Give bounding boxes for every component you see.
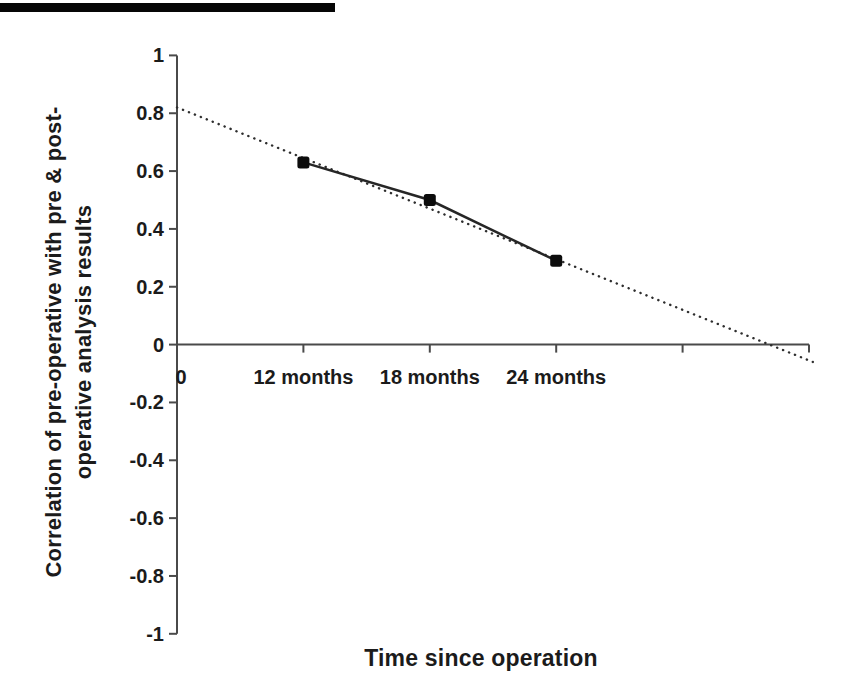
y-tick-label: 0.4 — [136, 218, 165, 240]
x-category-label: 12 months — [253, 366, 353, 388]
y-tick-label: 0 — [153, 334, 164, 356]
data-point-marker — [424, 194, 436, 206]
figure: Correlation of pre-operative with pre & … — [0, 0, 854, 698]
y-tick-label: 0.2 — [136, 276, 164, 298]
y-tick-label: -1 — [146, 623, 164, 645]
data-point-marker — [297, 156, 309, 168]
data-point-marker — [550, 255, 562, 267]
y-tick-label: -0.6 — [130, 507, 164, 529]
y-tick-label: -0.8 — [130, 565, 164, 587]
y-tick-label: -0.4 — [130, 449, 165, 471]
series-line — [303, 162, 556, 260]
plot-area: 10.80.60.40.20-0.2-0.4-0.6-0.8-1012 mont… — [0, 0, 854, 698]
y-tick-label: 0.8 — [136, 102, 164, 124]
x-axis-title: Time since operation — [321, 645, 641, 672]
y-tick-label: -0.2 — [130, 391, 164, 413]
trendline-dotted — [177, 107, 813, 361]
x-category-label: 18 months — [380, 366, 480, 388]
x-category-label: 0 — [175, 366, 186, 388]
y-tick-label: 1 — [153, 44, 164, 66]
y-tick-label: 0.6 — [136, 160, 164, 182]
x-category-label: 24 months — [506, 366, 606, 388]
